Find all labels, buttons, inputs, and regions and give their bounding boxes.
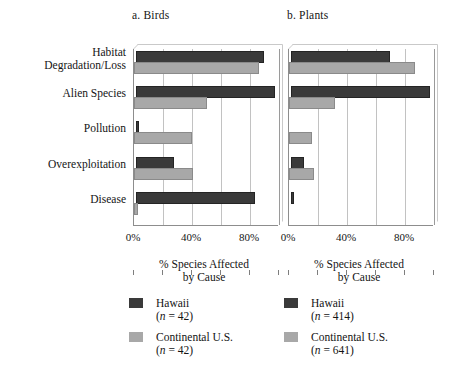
plot-area-plants — [288, 49, 433, 226]
bar-continental-3[interactable] — [289, 168, 314, 180]
bar-shadow — [258, 67, 262, 79]
legend-entry-continental[interactable]: Continental U.S.(n = 641) — [279, 331, 439, 357]
bar-group-0 — [289, 51, 434, 75]
gridline-100 — [434, 49, 435, 225]
bar-group-0 — [134, 51, 279, 75]
legend-sample-size: (n = 641) — [311, 344, 439, 357]
x-ticklabel-40: 40% — [336, 231, 356, 243]
bar-shadow — [311, 137, 315, 149]
bar-group-2 — [134, 121, 279, 145]
legend-sample-size: (n = 414) — [311, 310, 439, 323]
panel-title-birds: a. Birds — [132, 9, 169, 21]
x-ticklabel-40: 40% — [181, 231, 201, 243]
plot-panel-plants — [283, 44, 435, 226]
legend-swatch-dark — [129, 298, 143, 308]
bar-continental-0[interactable] — [134, 62, 259, 74]
bar-continental-1[interactable] — [289, 97, 335, 109]
panel-title-plants: b. Plants — [287, 9, 328, 21]
category-label-line-1: Disease — [8, 193, 126, 206]
bar-continental-3[interactable] — [134, 168, 193, 180]
category-label-3: Overexploitation — [8, 158, 126, 171]
bar-continental-4[interactable] — [134, 203, 138, 215]
bar-continental-0[interactable] — [289, 62, 415, 74]
legend-swatch-light — [284, 332, 298, 342]
bar-shadow — [313, 173, 317, 185]
bar-hawaii-4[interactable] — [136, 192, 255, 204]
figure-root: a. Birds b. Plants HabitatDegradation/Lo… — [0, 0, 455, 374]
x-ticklabels-birds: 0%40%80% — [128, 231, 300, 247]
bar-group-4 — [289, 192, 434, 216]
legend-entry-hawaii[interactable]: Hawaii(n = 414) — [279, 297, 439, 323]
bar-shadow — [206, 102, 210, 114]
bar-group-1 — [289, 86, 434, 110]
bar-group-1 — [134, 86, 279, 110]
bar-hawaii-4[interactable] — [291, 192, 294, 204]
legend-sample-size: (n = 42) — [156, 344, 284, 357]
bar-continental-2[interactable] — [134, 132, 192, 144]
bar-continental-1[interactable] — [134, 97, 207, 109]
bar-continental-2[interactable] — [289, 132, 312, 144]
legend-sample-size: (n = 42) — [156, 310, 284, 323]
bar-shadow — [263, 56, 267, 68]
legend-swatch-light — [129, 332, 143, 342]
category-label-line-1: Alien Species — [8, 87, 126, 100]
x-ticklabels-plants: 0%40%80% — [283, 231, 455, 247]
bar-shadow — [254, 197, 258, 209]
legend-entry-hawaii[interactable]: Hawaii(n = 42) — [124, 297, 284, 323]
bar-shadow — [429, 91, 433, 103]
bar-shadow — [334, 102, 338, 114]
legend-label: Hawaii — [311, 297, 439, 310]
x-axis-caption-birds: % Species Affected by Cause — [124, 258, 284, 284]
bar-shadow — [293, 197, 297, 209]
category-label-line-1: Pollution — [8, 122, 126, 135]
bar-group-3 — [289, 157, 434, 181]
category-label-line-1: Habitat — [8, 46, 126, 59]
caption-line-2: by Cause — [338, 271, 380, 283]
category-label-1: Alien Species — [8, 87, 126, 100]
bar-group-3 — [134, 157, 279, 181]
caption-line-2: by Cause — [183, 271, 225, 283]
x-axis-caption-plants: % Species Affected by Cause — [279, 258, 439, 284]
legend-entry-continental[interactable]: Continental U.S.(n = 42) — [124, 331, 284, 357]
x-ticklabel-0: 0% — [126, 231, 141, 243]
legend-label: Hawaii — [156, 297, 284, 310]
legend-plants: Hawaii(n = 414)Continental U.S.(n = 641) — [279, 297, 439, 365]
legend-swatch-dark — [284, 298, 298, 308]
bar-shadow — [414, 67, 418, 79]
caption-line-1: % Species Affected — [314, 258, 404, 270]
gridline-100 — [279, 49, 280, 225]
category-label-line-2: Degradation/Loss — [8, 59, 126, 72]
legend-birds: Hawaii(n = 42)Continental U.S.(n = 42) — [124, 297, 284, 365]
bar-shadow — [192, 173, 196, 185]
category-axis-labels: HabitatDegradation/LossAlien SpeciesPoll… — [8, 44, 128, 226]
x-ticklabel-80: 80% — [239, 231, 259, 243]
bar-group-4 — [134, 192, 279, 216]
legend-label: Continental U.S. — [311, 331, 439, 344]
category-label-2: Pollution — [8, 122, 126, 135]
bar-shadow — [137, 208, 141, 220]
category-label-0: HabitatDegradation/Loss — [8, 46, 126, 71]
bar-group-2 — [289, 121, 434, 145]
plot-panel-birds — [128, 44, 280, 226]
bar-shadow — [274, 91, 278, 103]
plot-area-birds — [133, 49, 278, 226]
category-label-4: Disease — [8, 193, 126, 206]
x-ticklabel-80: 80% — [394, 231, 414, 243]
caption-line-1: % Species Affected — [159, 258, 249, 270]
category-label-line-1: Overexploitation — [8, 158, 126, 171]
x-ticklabel-0: 0% — [281, 231, 296, 243]
legend-label: Continental U.S. — [156, 331, 284, 344]
